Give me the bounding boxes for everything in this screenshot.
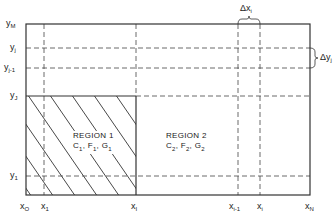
grid-dashed-lines	[26, 24, 310, 195]
domain-frame	[26, 24, 310, 195]
label-x-i: xi	[257, 201, 263, 214]
label-y-M: yM	[6, 18, 16, 31]
label-x-i-minus-1: xi-1	[229, 201, 240, 214]
label-x-N: xN	[305, 201, 314, 214]
region2-params: C2, F2, G2	[166, 141, 207, 154]
region2-label: REGION 2 C2, F2, G2	[166, 131, 207, 154]
label-y-j-minus-1: yj-1	[4, 62, 15, 75]
label-x-I: xI	[131, 201, 137, 214]
label-x-1: x1	[41, 201, 49, 214]
label-delta-x: Δxi	[240, 3, 252, 16]
delta-y-brace	[310, 48, 318, 68]
label-y-j: yj	[10, 42, 16, 55]
region1-title: REGION 1	[73, 131, 114, 141]
region1-params: C1, F1, G1	[73, 141, 114, 154]
region1-label: REGION 1 C1, F1, G1	[72, 131, 115, 154]
label-delta-y: Δyj	[320, 52, 332, 65]
label-y-1: y1	[10, 170, 18, 183]
label-y-J: yJ	[10, 90, 18, 103]
region2-title: REGION 2	[166, 131, 207, 141]
label-x-O: xO	[20, 201, 29, 214]
delta-x-brace	[238, 16, 260, 24]
grid-diagram	[0, 0, 336, 217]
